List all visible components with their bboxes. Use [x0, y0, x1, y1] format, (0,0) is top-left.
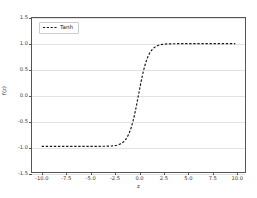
x-tick-label: -5.0 [86, 176, 96, 181]
figure-canvas: f(z) z -1.5-1.0-0.50.00.51.01.5 -10.0-7.… [0, 0, 257, 198]
y-tick-label: 1.0 [20, 41, 28, 46]
y-tick-label: -1.0 [18, 145, 28, 150]
y-tick-label: 0.0 [20, 93, 28, 98]
tanh-curve [32, 18, 245, 172]
x-tick-label: 7.5 [209, 176, 217, 181]
legend[interactable]: Tanh [39, 22, 79, 34]
legend-label-tanh: Tanh [60, 25, 73, 31]
plot-area: -1.5-1.0-0.50.00.51.01.5 -10.0-7.5-5.0-2… [31, 17, 246, 173]
x-tick-label: 5.0 [184, 176, 192, 181]
y-tick-label: -1.5 [18, 171, 28, 176]
x-tick-label: 10.0 [231, 176, 243, 181]
x-tick-label: -2.5 [110, 176, 120, 181]
x-tick-label: 2.5 [160, 176, 168, 181]
y-tick-label: -0.5 [18, 119, 28, 124]
y-tick-label: 1.5 [20, 15, 28, 20]
legend-line-sample-icon [43, 27, 57, 28]
tanh-curve-path [42, 44, 236, 147]
x-axis-label: z [31, 184, 246, 189]
y-tick-mark [29, 174, 32, 175]
y-axis-label: f(z) [2, 86, 7, 95]
x-tick-label: -7.5 [61, 176, 71, 181]
y-tick-label: 0.5 [20, 67, 28, 72]
x-tick-label: -10.0 [35, 176, 48, 181]
x-tick-label: 0.0 [135, 176, 143, 181]
